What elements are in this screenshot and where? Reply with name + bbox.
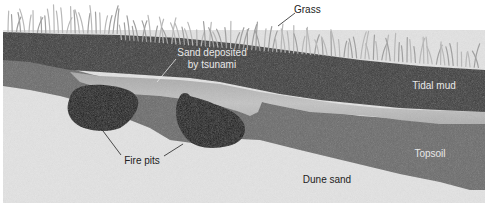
grass-blade xyxy=(90,6,92,33)
topsoil-label: Topsoil xyxy=(414,148,445,159)
grass-blade xyxy=(399,43,400,62)
grass-leader-line xyxy=(278,13,295,26)
grass-blade xyxy=(54,5,55,33)
grass-blade xyxy=(61,8,63,33)
grass-blade xyxy=(8,11,9,32)
grass-blade xyxy=(331,32,332,56)
tsunami-sand-label-line2: by tsunami xyxy=(188,59,236,70)
grass-blade xyxy=(74,10,75,33)
grass-blade xyxy=(423,37,424,63)
grass-blade xyxy=(12,15,13,32)
grass-blade xyxy=(47,9,50,32)
grass-label: Grass xyxy=(294,4,321,15)
grass-blade xyxy=(100,13,101,33)
grass-blade xyxy=(117,9,119,34)
tidal-mud-label: Tidal mud xyxy=(412,80,456,91)
grass-blade xyxy=(41,17,42,33)
fire-pits-label: Fire pits xyxy=(124,155,160,166)
grass-blade xyxy=(29,15,31,32)
grass-blade xyxy=(96,12,97,33)
dune-sand-label: Dune sand xyxy=(303,174,351,185)
grass-blade xyxy=(56,11,58,33)
tsunami-sand-label-line1: Sand deposited xyxy=(177,47,247,58)
cross-section-diagram: Grass Sand deposited by tsunami Tidal mu… xyxy=(0,0,490,210)
